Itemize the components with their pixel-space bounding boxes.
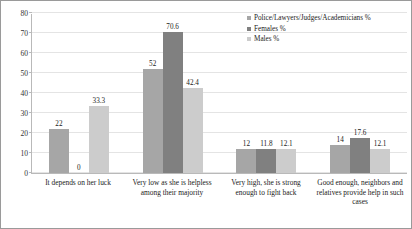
x-axis-category-label: Very low as she is helpless among their … [125, 178, 219, 207]
x-axis-category-label: Very high, she is strong enough to fight… [219, 178, 313, 207]
bar-value-label: 14 [337, 136, 344, 144]
bar-value-label: 52 [149, 60, 156, 68]
bar-slot: 0 [69, 14, 89, 173]
bar-value-label: 33.3 [93, 97, 106, 105]
x-axis-categories: It depends on her luckVery low as she is… [31, 178, 407, 207]
legend-label: Police/Lawyers/Judges/Academicians % [254, 14, 371, 22]
bar[interactable] [350, 138, 370, 173]
legend-swatch-icon [247, 16, 251, 20]
bar-slot: 42.4 [183, 14, 203, 173]
y-tick-label: 10 [20, 149, 28, 158]
bar-value-label: 22 [55, 120, 62, 128]
y-tick-mark [29, 12, 32, 13]
y-tick-label: 20 [20, 129, 28, 138]
bar[interactable] [256, 149, 276, 173]
legend-item[interactable]: Males % [247, 34, 411, 45]
bar[interactable] [143, 69, 163, 173]
legend-swatch-icon [247, 27, 251, 31]
bar-slot: 52 [143, 14, 163, 173]
bar-slot: 33.3 [89, 14, 109, 173]
y-tick-label: 0 [24, 169, 28, 178]
legend-label: Females % [254, 25, 286, 33]
bar-value-label: 42.4 [186, 79, 199, 87]
bar[interactable] [276, 149, 296, 173]
bar-value-label: 12 [243, 140, 250, 148]
y-tick-label: 50 [20, 69, 28, 78]
bar-value-label: 11.8 [260, 140, 272, 148]
legend-label: Males % [254, 35, 279, 43]
bar[interactable] [236, 149, 256, 173]
bar-value-label: 12.1 [374, 140, 387, 148]
bar-slot: 22 [49, 14, 69, 173]
bar[interactable] [89, 106, 109, 173]
bar[interactable] [163, 32, 183, 173]
bar-slot: 70.6 [163, 14, 183, 173]
chart-container: 01020304050607080 22033.35270.642.41211.… [0, 0, 412, 229]
bar[interactable] [330, 145, 350, 173]
legend-item[interactable]: Females % [247, 24, 411, 35]
y-tick-label: 30 [20, 109, 28, 118]
x-axis-category-label: Good enough, neighbors and relatives pro… [313, 178, 407, 207]
y-tick-label: 80 [20, 9, 28, 18]
y-tick-label: 60 [20, 49, 28, 58]
y-tick-label: 70 [20, 29, 28, 38]
legend-item[interactable]: Police/Lawyers/Judges/Academicians % [247, 13, 411, 24]
bar-value-label: 70.6 [166, 23, 179, 31]
chart-legend: Police/Lawyers/Judges/Academicians %Fema… [247, 13, 411, 45]
y-tick-label: 40 [20, 89, 28, 98]
bar-value-label: 12.1 [280, 140, 293, 148]
bar-value-label: 0 [77, 164, 81, 172]
bar[interactable] [183, 88, 203, 173]
bar-group: 5270.642.4 [126, 14, 220, 173]
x-axis-category-label: It depends on her luck [31, 178, 125, 207]
legend-swatch-icon [247, 37, 251, 41]
bar[interactable] [49, 129, 69, 173]
bar-group: 22033.3 [32, 14, 126, 173]
bar-value-label: 17.6 [354, 129, 367, 137]
bar[interactable] [370, 149, 390, 173]
